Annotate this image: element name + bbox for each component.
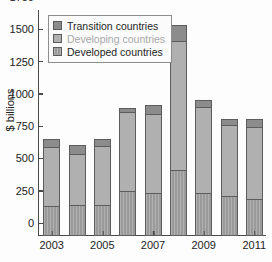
bar-segment-developing: [69, 154, 86, 206]
y-axis-title: $ billions: [4, 74, 16, 146]
bar-2007: [145, 105, 162, 235]
bar-segment-developing: [246, 127, 263, 200]
bar-segment-developed: [145, 193, 162, 236]
legend-swatch-transition-icon: [53, 21, 62, 30]
bar-segment-developing: [119, 112, 136, 191]
x-axis-tick-label: 2009: [191, 235, 215, 251]
bar-segment-developed: [195, 193, 212, 236]
y-axis-tick-label: 1000: [10, 88, 39, 100]
bar-segment-developed: [119, 191, 136, 236]
x-tick-mark: [204, 231, 205, 235]
x-tick-mark: [254, 231, 255, 235]
x-tick-mark: [153, 231, 154, 235]
bar-2006: [119, 108, 136, 235]
legend-label: Transition countries: [67, 20, 158, 32]
bar-segment-developed: [170, 170, 187, 236]
x-axis-tick-label: 2003: [39, 235, 63, 251]
legend-label: Developed countries: [67, 46, 163, 58]
legend-swatch-developing-icon: [53, 34, 62, 43]
bar-segment-developing: [94, 146, 111, 206]
y-axis-tick-label: 0: [28, 217, 39, 229]
legend-item-transition: Transition countries: [53, 19, 165, 32]
bar-2004: [69, 145, 86, 235]
x-axis-tick-label: 2005: [90, 235, 114, 251]
y-axis-tick-label: 1500: [10, 23, 39, 35]
bar-segment-developing: [43, 147, 60, 207]
x-tick-mark: [102, 231, 103, 235]
y-axis-tick-label: 500: [16, 152, 39, 164]
bar-segment-developing: [145, 114, 162, 193]
bar-2010: [221, 119, 238, 235]
bar-2003: [43, 139, 60, 235]
bar-2009: [195, 100, 212, 235]
y-axis-tick-label: 750: [16, 120, 39, 132]
y-axis-tick-label: 250: [16, 185, 39, 197]
bar-2011: [246, 119, 263, 235]
bar-segment-developing: [170, 41, 187, 171]
legend-item-developing: Developing countries: [53, 32, 165, 45]
bar-segment-developed: [221, 196, 238, 236]
bar-2008: [170, 25, 187, 235]
stacked-bar-chart: $ billions 02505007501000125015001750 20…: [0, 0, 272, 262]
y-axis-tick-label: 1250: [10, 56, 39, 68]
bar-segment-developed: [69, 205, 86, 236]
bar-2005: [94, 139, 111, 235]
y-axis-tick-label: 1750: [10, 0, 39, 3]
bar-segment-developing: [221, 125, 238, 197]
bar-segment-transition: [170, 25, 187, 42]
legend-item-developed: Developed countries: [53, 45, 165, 58]
bar-segment-developing: [195, 107, 212, 195]
x-axis-tick-label: 2007: [141, 235, 165, 251]
legend: Transition countriesDeveloping countries…: [48, 15, 172, 63]
legend-swatch-developed-icon: [53, 47, 62, 56]
x-tick-mark: [52, 231, 53, 235]
legend-label: Developing countries: [67, 33, 165, 45]
x-axis-tick-label: 2011: [243, 235, 267, 251]
